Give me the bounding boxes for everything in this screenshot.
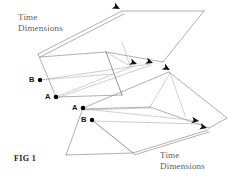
lower-plane-time-vector-2: [93, 121, 201, 124]
lower-plane-fold-line: [150, 107, 209, 128]
arrow-upper-top-icon: [112, 2, 122, 12]
time-dimensions-bottom-line1: Time: [160, 150, 205, 161]
lower-plane-group: [66, 63, 227, 155]
lower-plane-rear-edge-left: [83, 72, 169, 108]
time-dimensions-top-line2: Dimensions: [18, 23, 63, 34]
upper-plane-front-edge-diagonal: [106, 52, 122, 95]
lower-plane-time-vector-1: [84, 109, 199, 121]
upper-plane-rear-edge-right: [163, 11, 204, 62]
point-dot-lower-a: [81, 106, 86, 111]
lower-plane-front-edge-bottom: [66, 153, 133, 155]
point-dot-lower-b: [90, 118, 94, 122]
time-dimensions-label-bottom-right: Time Dimensions: [160, 150, 205, 171]
lower-plane-rear-edge-right: [209, 118, 227, 128]
point-label-upper-a: A: [45, 93, 50, 101]
arrow-upper-mid-right-icon: [145, 57, 154, 66]
lower-plane-hidden-diagonal: [150, 73, 170, 107]
lower-plane-rear-edge-top: [169, 72, 227, 118]
lower-plane-hidden-vertical: [170, 73, 186, 118]
point-label-upper-b: B: [29, 76, 34, 84]
time-dimensions-top-line1: Time: [18, 12, 63, 23]
point-label-lower-b: B: [81, 116, 86, 124]
lower-plane-front-edge-diagonal: [92, 120, 133, 153]
upper-plane-time-vector-1: [56, 66, 134, 97]
upper-plane-rear-edge-bottom: [40, 52, 106, 57]
point-dot-upper-a: [54, 95, 59, 100]
time-dimensions-bottom-line2: Dimensions: [160, 161, 205, 172]
point-dot-upper-b: [38, 78, 42, 82]
upper-plane-time-vector-3: [57, 65, 151, 98]
arrow-lower-top-icon: [162, 63, 172, 73]
figure-caption: FIG 1: [14, 154, 36, 163]
time-dimensions-label-top-left: Time Dimensions: [18, 12, 63, 33]
point-label-lower-a: A: [72, 104, 77, 112]
figure-container: Time Dimensions Time Dimensions B A A B …: [0, 0, 231, 178]
upper-plane-front-edge-left: [38, 54, 56, 97]
upper-plane-time-vector-2: [40, 64, 150, 80]
